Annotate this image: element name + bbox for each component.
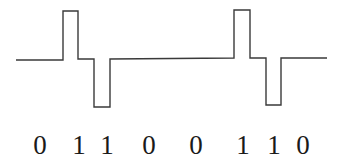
bit-label: 1	[267, 130, 281, 160]
bit-label: 1	[100, 130, 114, 160]
bit-label: 0	[142, 130, 156, 160]
bit-label: 1	[72, 130, 86, 160]
signal-waveform	[16, 10, 327, 107]
bit-label: 1	[236, 130, 250, 160]
bit-label: 0	[189, 130, 203, 160]
waveform-diagram	[0, 0, 341, 163]
bit-label: 0	[296, 130, 310, 160]
bit-label: 0	[33, 130, 47, 160]
